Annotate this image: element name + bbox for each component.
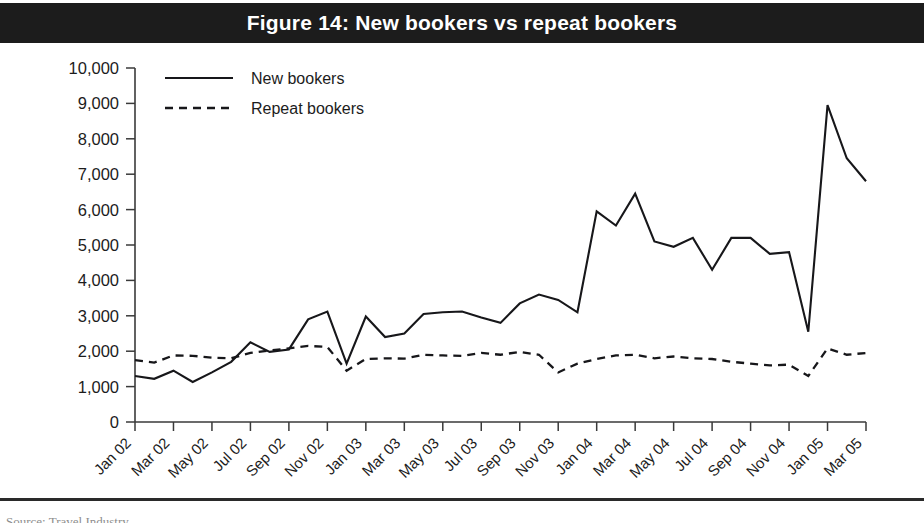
y-axis-label: 9,000 <box>78 94 119 112</box>
x-axis-label: Sep 02 <box>242 434 288 480</box>
y-axis-label: 4,000 <box>78 271 119 289</box>
x-axis-label: Mar 02 <box>128 434 173 479</box>
y-axis-label: 5,000 <box>78 236 119 254</box>
x-axis-label: May 03 <box>395 434 442 481</box>
series-line-repeat-bookers <box>135 346 866 376</box>
y-axis-label: 2,000 <box>78 342 119 360</box>
footer-source-text: Source: Travel Industry <box>6 514 336 523</box>
figure-container: Figure 14: New bookers vs repeat bookers… <box>0 0 924 523</box>
figure-title-bar: Figure 14: New bookers vs repeat bookers <box>0 3 924 43</box>
x-axis-label: Jan 05 <box>783 434 827 478</box>
x-axis-label: Mar 03 <box>358 434 403 479</box>
y-axis-label: 1,000 <box>78 378 119 396</box>
legend-label-repeat-bookers: Repeat bookers <box>251 100 364 117</box>
x-axis-label: Nov 03 <box>512 434 558 480</box>
x-axis-label: Nov 02 <box>281 434 327 480</box>
y-axis-label: 8,000 <box>78 130 119 148</box>
y-axis-label: 7,000 <box>78 165 119 183</box>
x-axis-label: Sep 04 <box>704 434 750 480</box>
page-title: Figure 14: New bookers vs repeat bookers <box>247 11 677 35</box>
x-axis-label: Nov 04 <box>743 434 789 480</box>
y-axis-label: 10,000 <box>69 59 119 77</box>
x-axis-label: Mar 05 <box>820 434 865 479</box>
x-axis-label: Jan 04 <box>552 434 596 478</box>
x-axis-label: Mar 04 <box>589 434 634 479</box>
y-axis-label: 3,000 <box>78 307 119 325</box>
footer-divider <box>0 498 924 501</box>
x-axis-label: Jan 03 <box>321 434 365 478</box>
y-axis-label: 6,000 <box>78 201 119 219</box>
x-axis-label: Sep 03 <box>473 434 519 480</box>
x-axis-label: Jan 02 <box>90 434 134 478</box>
series-line-new-bookers <box>135 105 866 382</box>
legend-label-new-bookers: New bookers <box>251 70 344 87</box>
y-axis-label: 0 <box>110 413 119 431</box>
x-axis-label: May 02 <box>164 434 211 481</box>
chart-plot-area: 01,0002,0003,0004,0005,0006,0007,0008,00… <box>0 43 924 498</box>
line-chart: 01,0002,0003,0004,0005,0006,0007,0008,00… <box>0 43 924 498</box>
x-axis-label: May 04 <box>626 434 673 481</box>
